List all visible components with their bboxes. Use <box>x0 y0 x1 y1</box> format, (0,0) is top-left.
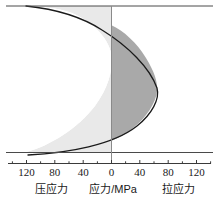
caption-tensile-stress: 拉应力 <box>162 182 195 196</box>
tick-label: 80 <box>49 166 60 179</box>
stress-distribution-figure: 120 80 40 0 40 80 120 压应力 应力/MPa 拉应力 <box>0 0 219 202</box>
tick-label: 120 <box>18 166 35 179</box>
tensile-fill-region <box>111 25 157 141</box>
tick-label: 40 <box>78 166 89 179</box>
caption-axis-title: 应力/MPa <box>89 182 137 196</box>
x-axis-tick-labels: 120 80 40 0 40 80 120 <box>0 166 219 182</box>
tick-label: 80 <box>163 166 174 179</box>
tick-label: 40 <box>134 166 145 179</box>
axis-caption-row: 压应力 应力/MPa 拉应力 <box>0 182 219 200</box>
caption-compressive-stress: 压应力 <box>35 182 68 196</box>
axis-major-ticks <box>27 160 197 164</box>
tick-label: 120 <box>188 166 205 179</box>
tick-label: 0 <box>109 166 115 179</box>
